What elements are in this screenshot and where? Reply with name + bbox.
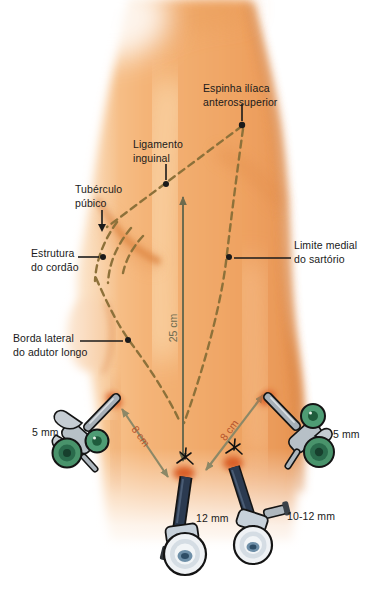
label-adductor-longus-border: Borda lateral do adutor longo: [13, 332, 87, 360]
label-asis: Espinha ilíaca anterossuperior: [203, 82, 277, 110]
measurement-25cm: 25 cm: [167, 314, 179, 343]
label-port-5mm-right: 5 mm: [333, 428, 360, 442]
label-inguinal-ligament: Ligamento inguinal: [133, 138, 183, 166]
anatomy-illustration: [0, 0, 372, 589]
label-sartorius-medial-limit: Limite medial do sartório: [294, 239, 357, 267]
thigh-highlight: [250, 260, 260, 460]
label-port-5mm-left: 5 mm: [32, 426, 59, 440]
label-pubic-tubercle: Tubérculo púbico: [75, 183, 122, 211]
label-cord-structure: Estrutura do cordão: [31, 247, 79, 275]
label-port-10-12mm: 10-12 mm: [287, 510, 335, 524]
label-port-12mm: 12 mm: [196, 512, 229, 526]
figure-canvas: Espinha ilíaca anterossuperior Ligamento…: [0, 0, 372, 589]
